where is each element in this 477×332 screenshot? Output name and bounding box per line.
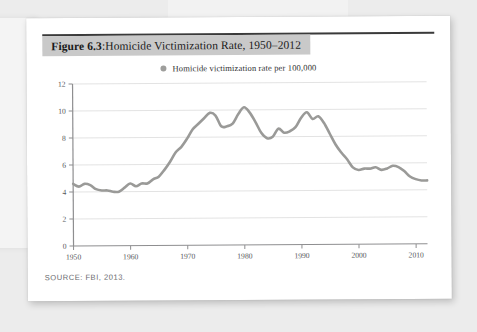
svg-text:8: 8 — [62, 134, 66, 143]
gridlines — [73, 82, 428, 219]
y-axis-tick-labels: 024681012 — [58, 80, 67, 251]
chart-legend: Homicide victimization rate per 100,000 — [26, 62, 450, 75]
svg-text:6: 6 — [62, 161, 66, 170]
figure-title-bar: Figure 6.3 : Homicide Victimization Rate… — [42, 35, 310, 57]
svg-text:2: 2 — [63, 215, 67, 224]
legend-marker-icon — [160, 65, 166, 71]
svg-text:2000: 2000 — [351, 251, 366, 260]
figure-card: Figure 6.3 : Homicide Victimization Rate… — [26, 16, 452, 302]
x-axis-tick-labels: 1950196019701980199020002010 — [66, 250, 424, 261]
figure-number: Figure 6.3 — [51, 40, 102, 52]
svg-text:4: 4 — [62, 188, 66, 197]
source-note: SOURCE: FBI, 2013. — [45, 273, 126, 282]
svg-text:1960: 1960 — [123, 252, 138, 261]
svg-text:0: 0 — [63, 242, 67, 251]
chart-plot-area: 024681012 1950196019701980199020002010 — [43, 76, 436, 268]
figure-title-text: Homicide Victimization Rate, 1950–2012 — [105, 39, 301, 52]
line-chart: 024681012 1950196019701980199020002010 — [43, 76, 436, 268]
svg-text:1990: 1990 — [294, 251, 309, 260]
legend-label: Homicide victimization rate per 100,000 — [172, 63, 316, 74]
homicide-rate-line — [73, 106, 428, 192]
axis-lines — [69, 82, 428, 250]
svg-text:1950: 1950 — [66, 252, 81, 261]
svg-text:12: 12 — [58, 80, 66, 89]
svg-text:1970: 1970 — [180, 252, 195, 261]
figure-content: Figure 6.3 : Homicide Victimization Rate… — [26, 16, 452, 302]
svg-text:10: 10 — [58, 107, 66, 116]
svg-text:2010: 2010 — [409, 250, 424, 259]
svg-text:1980: 1980 — [237, 251, 252, 260]
